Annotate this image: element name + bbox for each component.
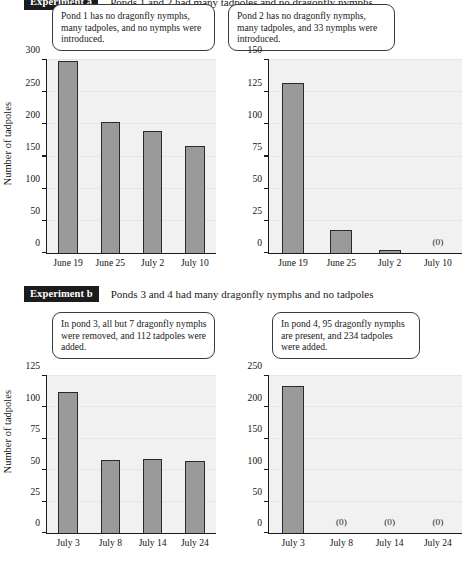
bar-cell [269, 60, 317, 253]
chart-pond-3-plot: 0255075100125July 3July 8July 14July 24 [46, 376, 216, 534]
x-axis-tick-label: July 3 [47, 537, 89, 548]
chart-pond-4-plot: 050100150200250(0)(0)(0)July 3July 8July… [268, 376, 462, 534]
y-axis-tick-label: 0 [35, 239, 40, 249]
bar-zero-annotation: (0) [414, 517, 462, 527]
bar [185, 146, 204, 253]
bar-group [47, 60, 216, 253]
y-axis-tick-label: 50 [252, 487, 262, 497]
y-axis-tick-label: 50 [30, 206, 40, 216]
y-axis-tick-label: 100 [248, 110, 262, 120]
x-axis-tick-label: July 2 [132, 257, 174, 268]
x-axis-labels: June 19June 25July 2July 10 [47, 257, 216, 268]
y-axis-tick-label: 25 [30, 487, 40, 497]
callout-pond-1: Pond 1 has no dragonfly nymphs, many tad… [52, 4, 215, 51]
y-axis-tick-label: 250 [248, 362, 262, 372]
x-axis-tick-label: June 25 [317, 257, 365, 268]
y-axis-tick-label: 200 [26, 110, 40, 120]
x-axis-tick-label: July 14 [132, 537, 174, 548]
callout-pond-4: In pond 4, 95 dragonfly nymphs are prese… [272, 312, 420, 359]
bar-zero-annotation: (0) [366, 517, 414, 527]
x-axis-tick-label: July 8 [89, 537, 131, 548]
x-axis-tick-label: July 14 [366, 537, 414, 548]
x-axis-labels: July 3July 8July 14July 24 [269, 537, 462, 548]
x-axis-tick-label: July 24 [174, 537, 216, 548]
y-axis-tick-label: 50 [252, 174, 262, 184]
bar [101, 460, 120, 533]
bar-cell [174, 60, 216, 253]
bar-cell [89, 60, 131, 253]
bar-cell [47, 376, 89, 533]
experiment-b-caption: Ponds 3 and 4 had many dragonfly nymphs … [111, 288, 374, 300]
y-axis-tick-label: 100 [26, 393, 40, 403]
y-axis-tick-label: 100 [248, 456, 262, 466]
x-axis-tick-label: July 24 [414, 537, 462, 548]
bar-cell [174, 376, 216, 533]
bar-cell [89, 376, 131, 533]
y-axis-tick-label: 0 [257, 519, 262, 529]
y-axis-tick-label: 75 [252, 142, 262, 152]
chart-pond-1-plot: 050100150200250300June 19June 25July 2Ju… [46, 60, 216, 254]
chart-pond-2-plot: 0255075100125150(0)June 19June 25July 2J… [268, 60, 462, 254]
callout-pond-3: In pond 3, all but 7 dragonfly nymphs we… [52, 312, 215, 359]
y-axis-tick-label: 200 [248, 393, 262, 403]
bar [143, 131, 162, 253]
bar-group: (0) [269, 60, 462, 253]
y-axis-tick-label: 75 [30, 424, 40, 434]
y-axis-tick-label: 150 [248, 46, 262, 56]
chart-pond-1-ylabel: Number of tadpoles [2, 102, 13, 185]
bar [58, 392, 77, 533]
bar-cell: (0) [414, 376, 462, 533]
bar-cell [47, 60, 89, 253]
bar-cell: (0) [366, 376, 414, 533]
chart-pond-3: Number of tadpoles 0255075100125July 3Ju… [0, 372, 222, 562]
x-axis-tick-label: June 19 [47, 257, 89, 268]
x-axis-tick-label: June 25 [89, 257, 131, 268]
chart-pond-4: 050100150200250(0)(0)(0)July 3July 8July… [230, 372, 464, 562]
x-axis-tick-label: July 10 [174, 257, 216, 268]
bar [143, 459, 162, 533]
bar-cell [132, 376, 174, 533]
bar-group: (0)(0)(0) [269, 376, 462, 533]
x-axis-tick-label: July 8 [317, 537, 365, 548]
y-axis-tick-label: 300 [26, 46, 40, 56]
bar-zero-annotation: (0) [317, 517, 365, 527]
x-axis-tick-label: July 2 [366, 257, 414, 268]
bar [379, 250, 401, 253]
chart-pond-1: Number of tadpoles 050100150200250300Jun… [0, 56, 222, 284]
y-axis-tick-label: 125 [248, 78, 262, 88]
y-axis-tick-label: 0 [257, 239, 262, 249]
x-axis-tick-label: July 3 [269, 537, 317, 548]
y-axis-tick-label: 0 [35, 519, 40, 529]
y-axis-tick-label: 125 [26, 362, 40, 372]
bar [330, 230, 352, 253]
chart-pond-3-ylabel: Number of tadpoles [2, 390, 13, 473]
y-axis-tick-label: 25 [252, 206, 262, 216]
bar [58, 61, 77, 253]
bar-cell: (0) [317, 376, 365, 533]
y-axis-tick-label: 250 [26, 78, 40, 88]
experiment-b-header: Experiment b Ponds 3 and 4 had many drag… [24, 286, 374, 302]
bar-cell [366, 60, 414, 253]
y-axis-tick-label: 150 [26, 142, 40, 152]
experiment-b-badge: Experiment b [24, 286, 99, 302]
x-axis-labels: July 3July 8July 14July 24 [47, 537, 216, 548]
bar-group [47, 376, 216, 533]
bar [185, 461, 204, 533]
bar-zero-annotation: (0) [414, 237, 462, 247]
bar [282, 386, 304, 533]
bar-cell [269, 376, 317, 533]
y-axis-tick-label: 100 [26, 174, 40, 184]
bar [282, 83, 304, 253]
x-axis-tick-label: July 10 [414, 257, 462, 268]
bar-cell [317, 60, 365, 253]
y-axis-tick-label: 150 [248, 424, 262, 434]
x-axis-tick-label: June 19 [269, 257, 317, 268]
bar-cell: (0) [414, 60, 462, 253]
bar-cell [132, 60, 174, 253]
bar [101, 122, 120, 253]
y-axis-tick-label: 50 [30, 456, 40, 466]
chart-pond-2: 0255075100125150(0)June 19June 25July 2J… [230, 56, 464, 284]
x-axis-labels: June 19June 25July 2July 10 [269, 257, 462, 268]
